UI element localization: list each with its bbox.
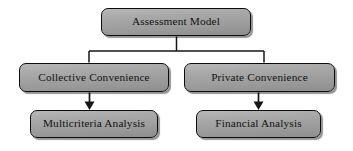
node-collective-convenience-label: Collective Convenience <box>38 72 150 83</box>
edge-private-to-financial <box>254 93 264 111</box>
node-multicriteria-analysis: Multicriteria Analysis <box>30 110 158 138</box>
edge-collective-to-multicriteria <box>85 93 95 111</box>
arrowhead-icon <box>85 102 95 111</box>
arrowhead-icon <box>254 102 264 111</box>
node-private-convenience-label: Private Convenience <box>211 72 308 83</box>
node-multicriteria-analysis-label: Multicriteria Analysis <box>43 118 145 129</box>
edge-root-to-branches <box>89 37 264 63</box>
node-assessment-model: Assessment Model <box>101 8 251 36</box>
node-private-convenience: Private Convenience <box>184 63 335 92</box>
node-collective-convenience: Collective Convenience <box>19 63 169 92</box>
node-financial-analysis-label: Financial Analysis <box>215 118 301 129</box>
node-assessment-model-label: Assessment Model <box>132 16 220 27</box>
node-financial-analysis: Financial Analysis <box>196 110 321 138</box>
flowchart-diagram: Assessment Model Collective Convenience … <box>0 0 353 151</box>
